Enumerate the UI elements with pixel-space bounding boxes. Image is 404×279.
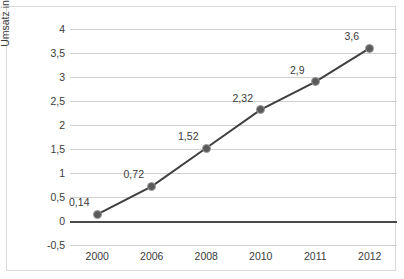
y-axis-tick-label: 0	[19, 215, 65, 227]
y-axis-tick-label: 2,5	[19, 95, 65, 107]
data-point-label: 0,14	[69, 196, 89, 208]
data-point-marker	[365, 44, 374, 53]
y-axis-tick-label: -0,5	[19, 239, 65, 251]
x-axis-tick-label: 2008	[195, 250, 218, 262]
y-axis-tick-label: 4	[19, 23, 65, 35]
x-axis-tick-label: 2006	[140, 250, 163, 262]
y-axis-tick-labels: 43,532,521,510,50-0,5	[19, 29, 65, 245]
chart-frame: Umsatz in Milliarden Euro 43,532,521,510…	[6, 6, 396, 271]
data-point-label: 2,32	[233, 92, 253, 104]
data-point-marker	[311, 77, 320, 86]
y-axis-tick-label: 3	[19, 71, 65, 83]
y-axis-tick-label: 2	[19, 119, 65, 131]
y-axis-tick-label: 1,5	[19, 143, 65, 155]
series-line	[70, 29, 397, 245]
data-point-label: 1,52	[178, 130, 198, 142]
data-point-marker	[202, 144, 211, 153]
x-axis-tick-label: 2011	[304, 250, 327, 262]
y-axis-tick-label: 0,5	[19, 191, 65, 203]
y-axis-tick-label: 1	[19, 167, 65, 179]
data-point-label: 2,9	[290, 64, 305, 76]
x-axis-tick-label: 2000	[86, 250, 109, 262]
gridline	[70, 245, 397, 246]
y-axis-tick-label: 3,5	[19, 47, 65, 59]
y-axis-title: Umsatz in Milliarden Euro	[0, 0, 11, 67]
series-polyline	[97, 48, 370, 214]
plot-area: 0,140,721,522,322,93,6	[70, 29, 397, 245]
x-axis-tick-labels: 200020062008201020112012	[70, 250, 397, 268]
x-axis-tick-label: 2010	[249, 250, 272, 262]
x-axis-tick-label: 2012	[358, 250, 381, 262]
data-point-label: 0,72	[124, 168, 144, 180]
data-point-label: 3,6	[344, 30, 359, 42]
data-point-marker	[93, 210, 102, 219]
